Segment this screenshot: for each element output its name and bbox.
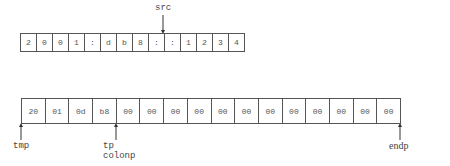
tmp-cell: 00 xyxy=(306,99,330,123)
tmp-cell: 00 xyxy=(117,99,141,123)
tmp-buffer: 20 01 0d b8 00 00 00 00 00 00 00 00 00 0… xyxy=(21,98,401,124)
src-buffer: 2 0 0 1 : d b 8 : : 1 2 3 4 xyxy=(20,33,245,52)
tmp-pointer-label: tmp xyxy=(13,141,29,151)
tmp-cell: 00 xyxy=(259,99,283,123)
src-cell: 8 xyxy=(133,34,149,51)
tmp-cell: 0d xyxy=(69,99,93,123)
src-cell: : xyxy=(165,34,181,51)
tmp-cell: 00 xyxy=(377,99,401,123)
src-cell: 0 xyxy=(53,34,69,51)
tmp-cell: 00 xyxy=(164,99,188,123)
src-cell: 3 xyxy=(213,34,229,51)
tmp-cell: b8 xyxy=(93,99,117,123)
src-cell: 1 xyxy=(69,34,85,51)
tmp-cell: 00 xyxy=(235,99,259,123)
tmp-cell: 00 xyxy=(140,99,164,123)
colonp-pointer-label: colonp xyxy=(103,151,135,161)
src-cell: 2 xyxy=(197,34,213,51)
tmp-cell: 00 xyxy=(188,99,212,123)
src-cell: 1 xyxy=(181,34,197,51)
pointer-arrows xyxy=(0,0,450,166)
src-cell: b xyxy=(117,34,133,51)
src-cell: 2 xyxy=(21,34,37,51)
tmp-cell: 01 xyxy=(46,99,70,123)
src-label: src xyxy=(155,3,171,13)
endp-pointer-label: endp xyxy=(389,140,408,151)
src-cell: : xyxy=(149,34,165,51)
src-cell: d xyxy=(101,34,117,51)
tmp-cell: 00 xyxy=(354,99,378,123)
src-cell: : xyxy=(85,34,101,51)
tmp-cell: 00 xyxy=(330,99,354,123)
tp-pointer-label: tp xyxy=(103,141,114,151)
src-cell: 0 xyxy=(37,34,53,51)
tmp-cell: 00 xyxy=(212,99,236,123)
src-cell: 4 xyxy=(229,34,245,51)
tmp-cell: 20 xyxy=(22,99,46,123)
tmp-cell: 00 xyxy=(283,99,307,123)
